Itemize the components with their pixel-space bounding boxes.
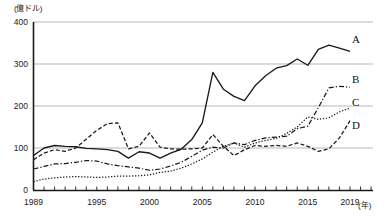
series-label-d: D — [352, 119, 360, 131]
y-axis-tick-label: 0 — [4, 185, 28, 195]
y-axis-tick-label: 100 — [4, 143, 28, 153]
chart-plot-area — [0, 0, 391, 216]
x-axis-tick-label: 1989 — [17, 197, 51, 207]
x-axis-tick-label: 2005 — [185, 197, 219, 207]
y-axis-tick-label: 300 — [4, 59, 28, 69]
series-line-b — [34, 86, 351, 170]
gridlines — [34, 22, 374, 148]
series-label-c: C — [352, 96, 359, 108]
x-axis-tick-label: 2010 — [238, 197, 272, 207]
y-axis-tick-label: 400 — [4, 17, 28, 27]
x-axis-tick-label: 1995 — [80, 197, 114, 207]
series-label-b: B — [352, 73, 359, 85]
x-axis-tick-label: 2000 — [133, 197, 167, 207]
data-series-group — [34, 45, 351, 182]
series-line-a — [34, 45, 351, 158]
y-axis-tick-label: 200 — [4, 101, 28, 111]
x-axis-ticks — [34, 187, 372, 191]
x-axis-unit-label: (年) — [358, 199, 371, 210]
x-axis-tick-label: 2015 — [291, 197, 325, 207]
series-label-a: A — [352, 33, 360, 45]
line-chart: (億ドル) 0100200300400 19891995200020052010… — [0, 0, 391, 216]
